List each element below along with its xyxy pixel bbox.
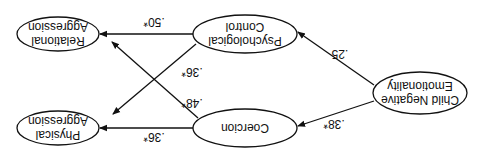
edge-cne-pc: .25: [298, 32, 374, 85]
node-label-line: Aggression: [28, 114, 88, 128]
path-diagram: .25 .38* .50* .36* .48* .36* Child Negat…: [0, 0, 482, 163]
node-psychological-control: Psychological Control: [193, 15, 297, 53]
node-label-line: Psychological: [208, 34, 281, 48]
edge-label-cne-pc: .25: [331, 47, 348, 61]
edge-co-pa: .36*: [100, 128, 193, 144]
node-physical-aggression: Physical Aggression: [17, 111, 99, 145]
edge-cne-co: .38*: [298, 101, 374, 131]
edge-label-co-pa: .36*: [143, 130, 165, 144]
node-child-negative-emotionality: Child Negative Emotionality: [373, 72, 467, 114]
node-label-line: Coercion: [221, 121, 269, 135]
edge-label-pc-pa: .36*: [181, 65, 203, 79]
node-coercion: Coercion: [193, 109, 297, 147]
edge-pc-ra: .50*: [100, 15, 193, 34]
node-label-line: Child Negative: [381, 93, 459, 107]
edge-label-co-ra: .48*: [181, 96, 203, 110]
edge-co-ra: .48*: [112, 42, 203, 118]
edge-label-pc-ra: .50*: [143, 15, 165, 29]
node-label-line: Emotionality: [387, 79, 452, 93]
edge-label-cne-co: .38*: [323, 117, 345, 131]
node-label-line: Control: [226, 20, 265, 34]
node-label-line: Physical: [36, 128, 81, 142]
node-relational-aggression: Relational Aggression: [17, 17, 99, 51]
node-label-line: Relational: [31, 34, 84, 48]
node-label-line: Aggression: [28, 20, 88, 34]
